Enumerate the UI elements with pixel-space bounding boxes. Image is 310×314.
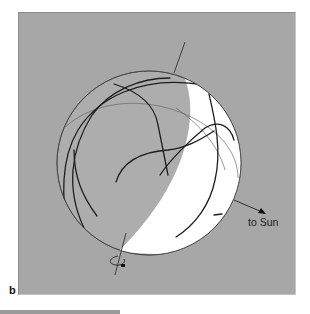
sun-arrowhead-icon (258, 208, 266, 214)
panel-label: b (9, 284, 16, 296)
cropped-bar (0, 310, 120, 314)
sphere-diagram (0, 0, 310, 314)
to-sun-label: to Sun (248, 216, 278, 228)
rotation-arrowhead (121, 264, 125, 267)
rotation-axis (174, 42, 185, 73)
rotation-arrow-icon (110, 256, 124, 265)
sun-direction-arrow (234, 200, 262, 212)
